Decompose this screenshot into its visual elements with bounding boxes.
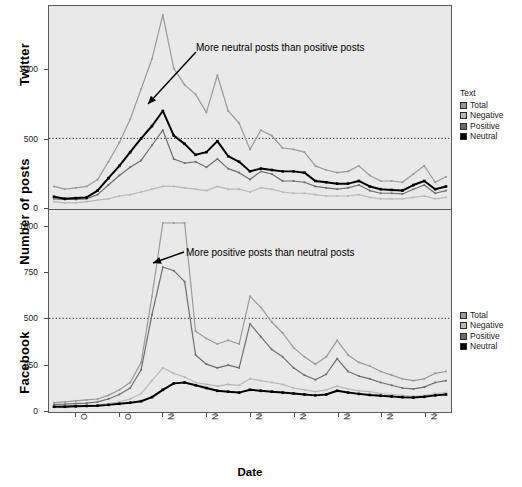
- annotation-arrow-facebook: [0, 0, 522, 487]
- legend-items: TotalNegativePositiveNeutral: [460, 100, 504, 142]
- legend-swatch-negative: [460, 322, 467, 329]
- legend-item-total[interactable]: Total: [460, 100, 504, 110]
- legend-label: Total: [470, 101, 488, 110]
- legend-swatch-neutral: [460, 133, 467, 140]
- legend-swatch-total: [460, 312, 467, 319]
- legend-item-negative[interactable]: Negative: [460, 321, 504, 331]
- legend-item-neutral[interactable]: Neutral: [460, 342, 504, 352]
- legend-label: Neutral: [470, 342, 497, 351]
- legend-label: Neutral: [470, 132, 497, 141]
- legend-swatch-neutral: [460, 343, 467, 350]
- legend-label: Positive: [470, 332, 500, 341]
- legend-label: Negative: [470, 321, 504, 330]
- legend-item-total[interactable]: Total: [460, 310, 504, 320]
- chart-figure: Number of posts Twitter Facebook Date 05…: [0, 0, 522, 487]
- legend-label: Positive: [470, 122, 500, 131]
- legend-item-neutral[interactable]: Neutral: [460, 132, 504, 142]
- legend-swatch-positive: [460, 123, 467, 130]
- legend-items: TotalNegativePositiveNeutral: [460, 310, 504, 352]
- legend-label: Negative: [470, 111, 504, 120]
- legend-item-positive[interactable]: Positive: [460, 121, 504, 131]
- legend-swatch-negative: [460, 112, 467, 119]
- legend-swatch-positive: [460, 333, 467, 340]
- legend-item-negative[interactable]: Negative: [460, 111, 504, 121]
- legend-title: Text: [460, 88, 504, 98]
- legend-item-positive[interactable]: Positive: [460, 331, 504, 341]
- legend-swatch-total: [460, 102, 467, 109]
- legend-twitter: Text TotalNegativePositiveNeutral: [460, 88, 504, 142]
- legend-facebook: Text TotalNegativePositiveNeutral: [460, 298, 504, 352]
- legend-label: Total: [470, 311, 488, 320]
